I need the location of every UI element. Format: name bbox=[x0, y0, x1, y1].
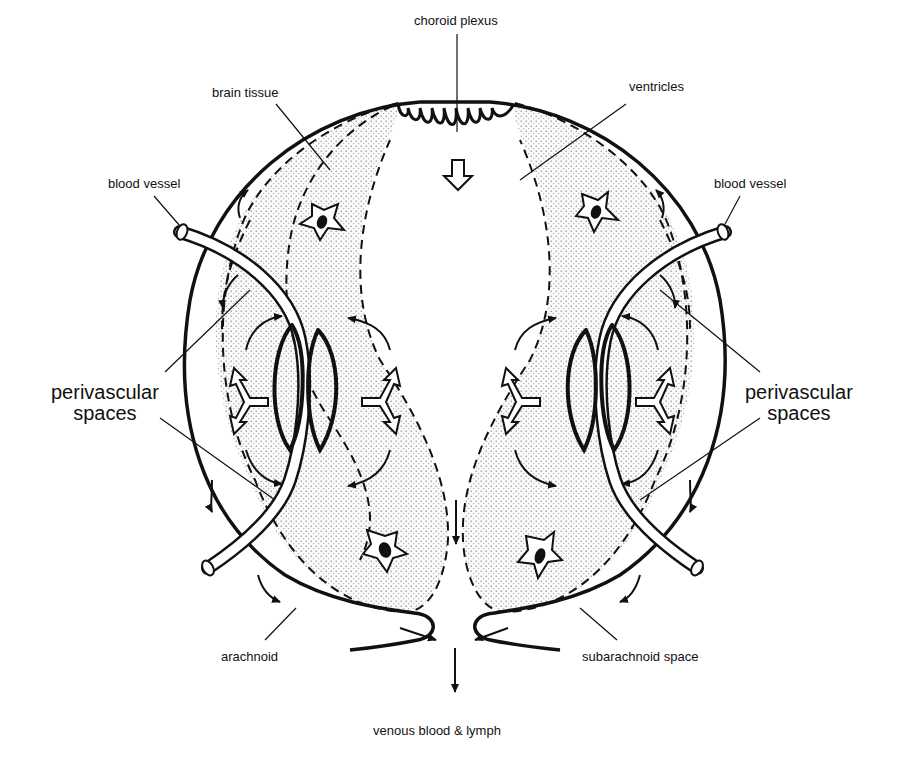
label-blood-vessel-left: blood vessel bbox=[108, 177, 180, 190]
label-perivascular-spaces-right: perivascular spaces bbox=[745, 382, 853, 424]
label-arachnoid: arachnoid bbox=[221, 650, 278, 663]
csf-production-arrow-icon bbox=[444, 160, 472, 190]
label-subarachnoid-space: subarachnoid space bbox=[582, 650, 698, 663]
label-brain-tissue: brain tissue bbox=[212, 86, 278, 99]
diagram-canvas bbox=[0, 0, 903, 757]
choroid-plexus bbox=[398, 103, 514, 125]
label-blood-vessel-right: blood vessel bbox=[714, 177, 786, 190]
label-ventricles: ventricles bbox=[629, 80, 684, 93]
label-perivascular-spaces-left: perivascular spaces bbox=[51, 382, 159, 424]
label-choroid-plexus: choroid plexus bbox=[414, 14, 498, 27]
label-venous-blood-lymph: venous blood & lymph bbox=[373, 724, 501, 737]
